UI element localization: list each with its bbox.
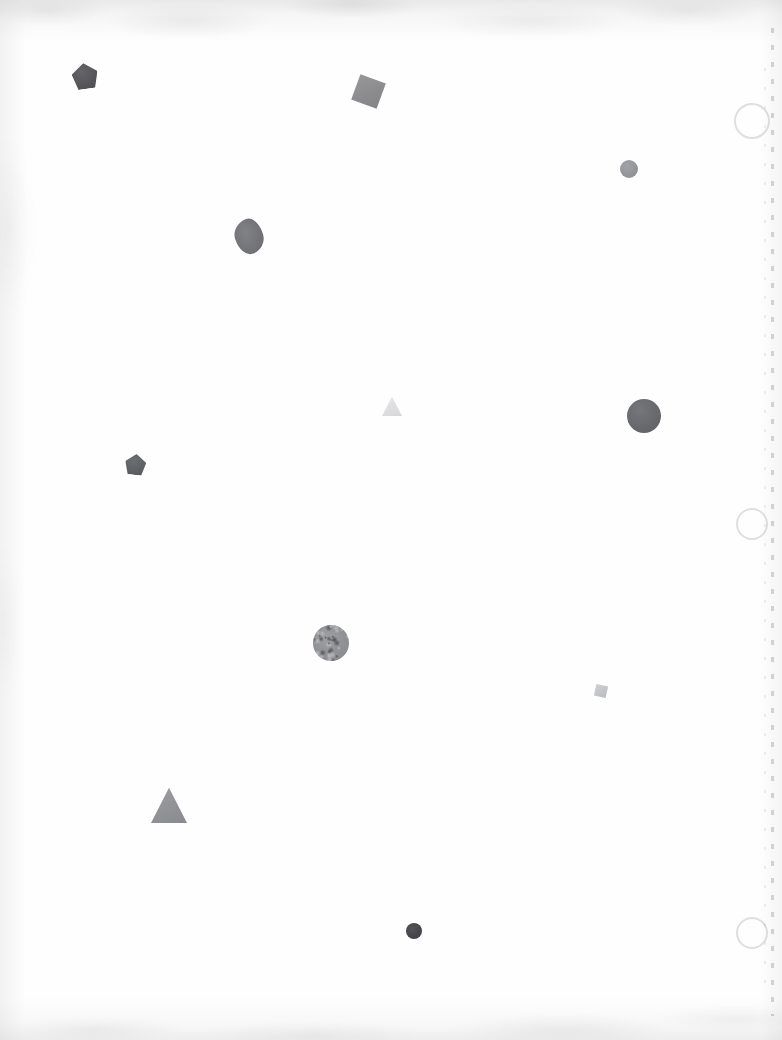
right-edge-dashed-ruler-secondary: [764, 68, 766, 986]
paper-background: [0, 0, 782, 1040]
circle-large-right: [627, 399, 661, 433]
circle-small-gray-top-right: [620, 160, 638, 178]
circle-small-dark-bottom: [406, 923, 422, 939]
square-pale-right: [594, 684, 608, 698]
right-edge-dashed-ruler: [771, 28, 774, 1016]
scanned-sheet-canvas: [0, 0, 782, 1040]
circle-noisy-center: [313, 625, 349, 661]
